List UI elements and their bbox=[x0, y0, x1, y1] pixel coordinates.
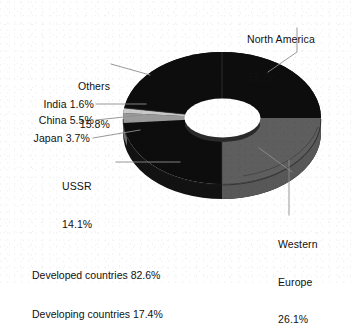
donut-hole bbox=[185, 99, 261, 142]
label-north-america: North America 33.2% bbox=[247, 8, 315, 96]
label-china: China 5.5% bbox=[6, 114, 94, 127]
footnote-developing: Developing countries 17.4% bbox=[32, 308, 163, 321]
leader-others bbox=[111, 64, 150, 75]
label-india: India 1.6% bbox=[6, 98, 94, 111]
label-western-europe-value: 26.1% bbox=[278, 313, 318, 326]
label-western-europe-name-line2: Europe bbox=[278, 276, 318, 289]
label-others-name: Others bbox=[64, 80, 110, 93]
label-japan: Japan 3.7% bbox=[4, 132, 90, 145]
label-north-america-name: North America bbox=[247, 33, 315, 46]
label-western-europe-name-line1: Western bbox=[278, 238, 318, 251]
label-ussr: USSR 14.1% bbox=[62, 155, 112, 243]
label-ussr-value: 14.1% bbox=[62, 218, 112, 231]
footnote-block: Developed countries 82.6% Developing cou… bbox=[32, 243, 163, 327]
label-western-europe: Western Europe 26.1% bbox=[278, 213, 318, 327]
hole-face bbox=[185, 99, 261, 138]
label-north-america-value: 33.2% bbox=[247, 71, 315, 84]
label-ussr-name: USSR bbox=[62, 180, 112, 193]
footnote-developed: Developed countries 82.6% bbox=[32, 269, 163, 282]
